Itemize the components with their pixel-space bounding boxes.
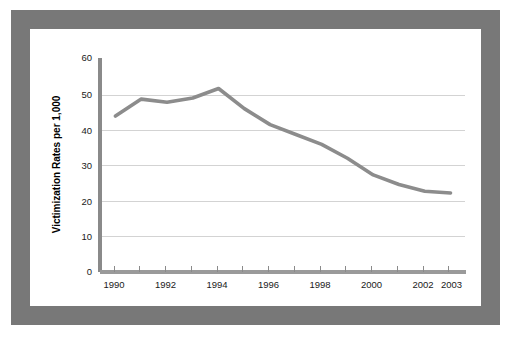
- x-axis-tick-labels: 1990 1992 1994 1996 1998 2000 2002 2003: [104, 279, 463, 290]
- x-tick-label-1990: 1990: [104, 279, 125, 290]
- y-tick-label-40: 40: [81, 125, 92, 136]
- y-axis-tick-labels: 60 50 40 30 20 10 0: [81, 52, 92, 277]
- y-axis-label: Victimization Rates per 1,000: [51, 95, 62, 233]
- line-chart-svg: 60 50 40 30 20 10 0 1990 1992 1994 1996 …: [0, 0, 514, 339]
- figure-canvas: 60 50 40 30 20 10 0 1990 1992 1994 1996 …: [0, 0, 514, 339]
- x-tick-label-2000: 2000: [361, 279, 382, 290]
- y-tick-label-60: 60: [81, 52, 92, 63]
- x-tick-label-2003: 2003: [441, 279, 462, 290]
- y-tick-label-10: 10: [81, 231, 92, 242]
- gridlines: [100, 95, 465, 237]
- x-tick-label-2002: 2002: [413, 279, 434, 290]
- x-tick-label-1994: 1994: [207, 279, 228, 290]
- y-tick-label-20: 20: [81, 196, 92, 207]
- x-tick-label-1996: 1996: [258, 279, 279, 290]
- x-tick-label-1992: 1992: [155, 279, 176, 290]
- y-tick-label-0: 0: [87, 266, 92, 277]
- data-series-line: [115, 88, 450, 193]
- y-tick-label-50: 50: [81, 89, 92, 100]
- x-tick-label-1998: 1998: [310, 279, 331, 290]
- chart-plot-area: 60 50 40 30 20 10 0 1990 1992 1994 1996 …: [0, 0, 514, 339]
- y-tick-label-30: 30: [81, 160, 92, 171]
